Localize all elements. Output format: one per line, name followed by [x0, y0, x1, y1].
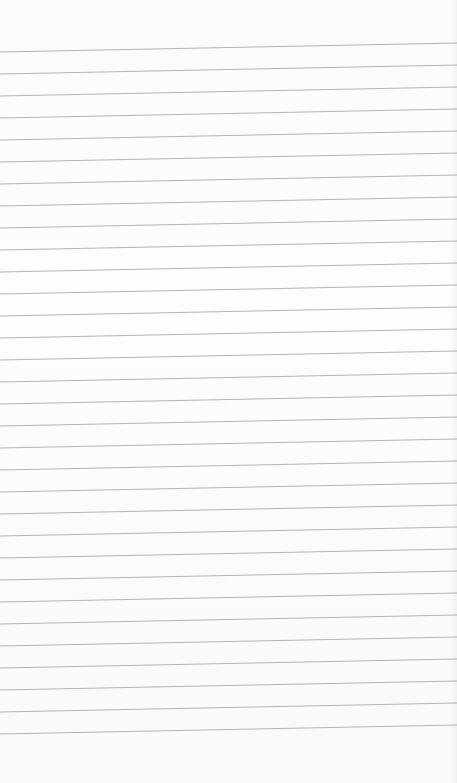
ruled-line [0, 219, 457, 228]
ruled-line [0, 571, 457, 580]
ruled-line [0, 87, 457, 96]
ruled-line [0, 263, 457, 272]
ruled-line [0, 659, 457, 668]
ruled-line [0, 681, 457, 690]
ruled-line [0, 43, 457, 52]
ruled-line [0, 527, 457, 536]
ruled-line [0, 65, 457, 74]
ruled-line [0, 351, 457, 360]
ruled-line [0, 373, 457, 382]
ruled-line [0, 175, 457, 184]
ruled-line [0, 505, 457, 514]
ruled-line [0, 439, 457, 448]
ruled-line [0, 197, 457, 206]
ruled-line [0, 725, 457, 734]
ruled-line [0, 307, 457, 316]
ruled-line [0, 461, 457, 470]
ruled-line [0, 109, 457, 118]
ruled-line [0, 153, 457, 162]
page-edge-shadow [451, 0, 457, 783]
ruled-line [0, 329, 457, 338]
ruled-line [0, 615, 457, 624]
ruled-line [0, 593, 457, 602]
ruled-line [0, 395, 457, 404]
ruled-line [0, 637, 457, 646]
ruled-line [0, 131, 457, 140]
ruled-line [0, 417, 457, 426]
ruled-lines [0, 0, 457, 783]
ruled-paper-page [0, 0, 457, 783]
ruled-line [0, 703, 457, 712]
ruled-line [0, 285, 457, 294]
ruled-line [0, 483, 457, 492]
ruled-line [0, 241, 457, 250]
ruled-line [0, 549, 457, 558]
